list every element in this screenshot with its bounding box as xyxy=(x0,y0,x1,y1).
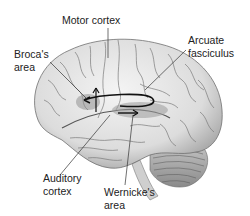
brain-illustration xyxy=(0,0,250,216)
label-arcuate-line1: Arcuate xyxy=(188,34,224,46)
label-wernicke-line1: Wernicke's xyxy=(104,186,155,198)
label-auditory-line1: Auditory xyxy=(43,172,82,184)
wernicke-region xyxy=(112,102,168,118)
label-auditory-line2: cortex xyxy=(43,185,72,197)
label-broca-line1: Broca's xyxy=(14,48,49,60)
label-broca-line2: area xyxy=(14,61,35,73)
label-wernicke-line2: area xyxy=(104,199,125,211)
label-motor-cortex: Motor cortex xyxy=(62,14,120,26)
label-arcuate-line2: fasciculus xyxy=(188,47,234,59)
